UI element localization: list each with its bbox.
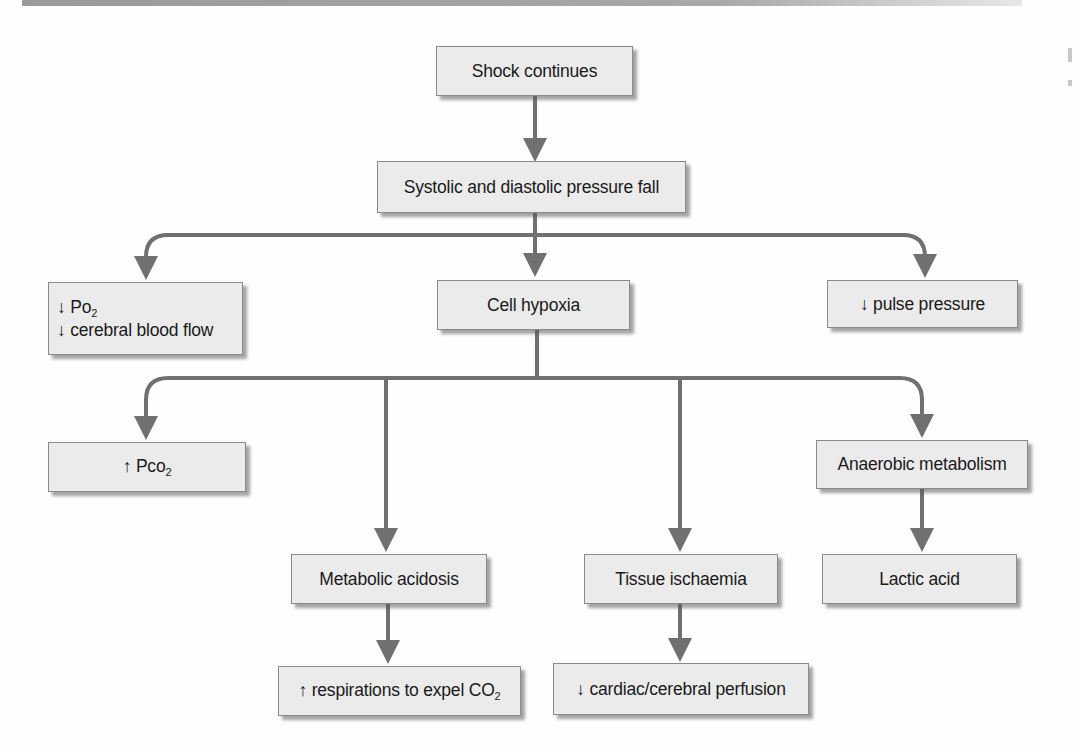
node-label: Shock continues [472, 61, 597, 81]
node-label: ↓ cardiac/cerebral perfusion [576, 679, 785, 699]
arrow-pressure-to-pulse [535, 235, 925, 266]
arrow-hypoxia-to-pco2 [146, 378, 537, 428]
node-shock-continues: Shock continues [436, 46, 633, 96]
node-cell-hypoxia: Cell hypoxia [437, 280, 630, 330]
node-label: ↑ Pco2 [123, 456, 172, 479]
node-label: Lactic acid [879, 569, 959, 589]
node-label: Systolic and diastolic pressure fall [404, 177, 659, 197]
node-label: Tissue ischaemia [615, 569, 746, 589]
connector-arrows [0, 0, 1075, 751]
node-cardiac-cerebral-perfusion: ↓ cardiac/cerebral perfusion [553, 663, 809, 715]
node-po2-cerebral-flow: ↓ Po2 ↓ cerebral blood flow [48, 282, 243, 355]
node-label: ↓ pulse pressure [860, 294, 985, 314]
node-label: Cell hypoxia [487, 295, 580, 315]
cerebral-flow-line: ↓ cerebral blood flow [57, 320, 213, 340]
node-respirations: ↑ respirations to expel CO2 [278, 666, 521, 716]
arrow-pressure-to-po2 [146, 235, 535, 268]
node-label: Metabolic acidosis [319, 569, 458, 589]
po2-line: ↓ Po2 [57, 297, 97, 320]
node-label: ↑ respirations to expel CO2 [298, 680, 500, 703]
node-tissue-ischaemia: Tissue ischaemia [584, 554, 778, 604]
arrow-hypoxia-to-anaerobic [537, 378, 922, 426]
node-pulse-pressure: ↓ pulse pressure [827, 280, 1018, 328]
node-anaerobic-metabolism: Anaerobic metabolism [816, 440, 1028, 489]
node-metabolic-acidosis: Metabolic acidosis [291, 554, 487, 604]
node-pco2: ↑ Pco2 [48, 442, 246, 492]
node-label: Anaerobic metabolism [837, 454, 1006, 474]
node-pressure-fall: Systolic and diastolic pressure fall [377, 161, 686, 213]
node-lactic-acid: Lactic acid [822, 554, 1017, 604]
